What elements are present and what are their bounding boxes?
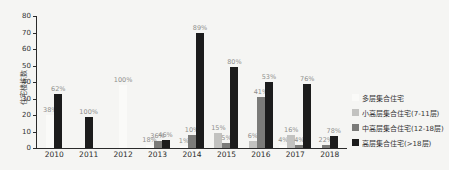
x-tick-label: 2018 <box>320 150 339 159</box>
bar <box>196 33 204 149</box>
bar-group-2014: 1%10%89% <box>175 33 209 149</box>
legend-swatch <box>352 124 359 131</box>
legend: 多层集合住宅小高层集合住宅(7-11层)中高层集合住宅(12-18层)高层集合住… <box>352 90 444 150</box>
bar-slot: 38% <box>46 115 54 148</box>
bar <box>249 141 257 148</box>
bar-slot: 62% <box>54 94 62 148</box>
bar-slot: 41% <box>257 97 265 148</box>
bar <box>188 135 196 148</box>
bar <box>119 85 127 148</box>
bar <box>146 145 154 148</box>
legend-label: 小高层集合住宅(7-11层) <box>362 108 439 118</box>
bar-slot: 10% <box>188 135 196 148</box>
bar-value-label: 76% <box>300 76 314 83</box>
legend-label: 中高层集合住宅(12-18层) <box>362 123 444 133</box>
bar <box>180 146 188 148</box>
bar-chart: 住宅楼栋数 01020304050607080 38%62%100%100%18… <box>0 0 449 170</box>
bar <box>222 143 230 148</box>
x-tick-label: 2012 <box>114 150 133 159</box>
bar <box>295 145 303 148</box>
bar-slot: 18% <box>146 145 154 148</box>
bar-value-label: 80% <box>227 59 241 66</box>
bar <box>230 67 238 148</box>
bar-slot: 4% <box>295 145 303 148</box>
bar <box>46 115 54 148</box>
y-tick-mark <box>33 82 36 83</box>
y-tick-label: 40 <box>9 78 31 86</box>
y-tick-label: 10 <box>9 128 31 136</box>
y-tick-mark <box>33 99 36 100</box>
x-tick-label: 2017 <box>286 150 305 159</box>
bar-value-label: 89% <box>193 25 207 32</box>
bar <box>322 145 330 148</box>
bar-group-2016: 6%41%53% <box>244 82 278 148</box>
bar-group-2013: 18%36%46% <box>140 140 174 148</box>
x-tick-label: 2016 <box>251 150 270 159</box>
bar-slot: 100% <box>119 85 127 148</box>
bar-slot: 1% <box>180 146 188 148</box>
bar <box>303 84 311 148</box>
y-tick-label: 70 <box>9 29 31 37</box>
bar-slot: 89% <box>196 33 204 149</box>
bar-slot: 46% <box>162 140 170 148</box>
bar <box>330 136 338 148</box>
bar <box>85 117 93 148</box>
bar-value-label: 100% <box>114 77 133 84</box>
x-tick-label: 2011 <box>79 150 98 159</box>
bar-slot: 6% <box>249 141 257 148</box>
legend-label: 高层集合住宅(>18层) <box>362 138 431 148</box>
bar-slot: 76% <box>303 84 311 148</box>
bar-slot: 22% <box>322 145 330 148</box>
bar <box>154 141 162 148</box>
bar <box>54 94 62 148</box>
plot-area: 住宅楼栋数 01020304050607080 38%62%100%100%18… <box>36 16 347 149</box>
x-tick-label: 2015 <box>217 150 236 159</box>
legend-item: 多层集合住宅 <box>352 90 444 105</box>
bar-value-label: 100% <box>79 109 98 116</box>
y-tick-mark <box>33 132 36 133</box>
bar-value-label: 53% <box>262 74 276 81</box>
bar <box>162 140 170 148</box>
bar-group-2015: 15%5%80% <box>209 67 243 148</box>
legend-swatch <box>352 139 359 146</box>
bar-value-label: 78% <box>327 128 341 135</box>
bar-group-2017: 4%16%4%76% <box>278 84 312 148</box>
bar <box>265 82 273 148</box>
y-tick-mark <box>33 49 36 50</box>
legend-item: 小高层集合住宅(7-11层) <box>352 105 444 120</box>
bar-group-2018: 22%78% <box>313 136 347 148</box>
y-tick-label: 80 <box>9 12 31 20</box>
y-tick-mark <box>33 115 36 116</box>
y-tick-label: 0 <box>9 144 31 152</box>
x-tick-label: 2013 <box>148 150 167 159</box>
bar-value-label: 16% <box>284 127 298 134</box>
legend-swatch <box>352 94 359 101</box>
bar-group-2012: 100% <box>106 85 140 148</box>
bar-slot: 5% <box>222 143 230 148</box>
y-tick-mark <box>33 33 36 34</box>
bar <box>257 97 265 148</box>
y-tick-label: 30 <box>9 95 31 103</box>
bar-value-label: 62% <box>51 86 65 93</box>
x-tick-label: 2014 <box>182 150 201 159</box>
bar-value-label: 15% <box>211 125 225 132</box>
y-tick-mark <box>33 66 36 67</box>
bar-slot: 78% <box>330 136 338 148</box>
legend-label: 多层集合住宅 <box>362 93 404 103</box>
y-tick-label: 50 <box>9 62 31 70</box>
bar-slot: 80% <box>230 67 238 148</box>
x-tick-label: 2010 <box>45 150 64 159</box>
legend-item: 高层集合住宅(>18层) <box>352 135 444 150</box>
bar <box>279 145 287 148</box>
y-tick-label: 60 <box>9 45 31 53</box>
y-tick-label: 20 <box>9 111 31 119</box>
y-tick-mark <box>33 148 36 149</box>
y-tick-mark <box>33 16 36 17</box>
bar-slot: 53% <box>265 82 273 148</box>
bar-slot: 36% <box>154 141 162 148</box>
legend-item: 中高层集合住宅(12-18层) <box>352 120 444 135</box>
bar-value-label: 46% <box>158 132 172 139</box>
bar-group-2011: 100% <box>71 117 105 148</box>
legend-swatch <box>352 109 359 116</box>
bar-group-2010: 38%62% <box>37 94 71 148</box>
